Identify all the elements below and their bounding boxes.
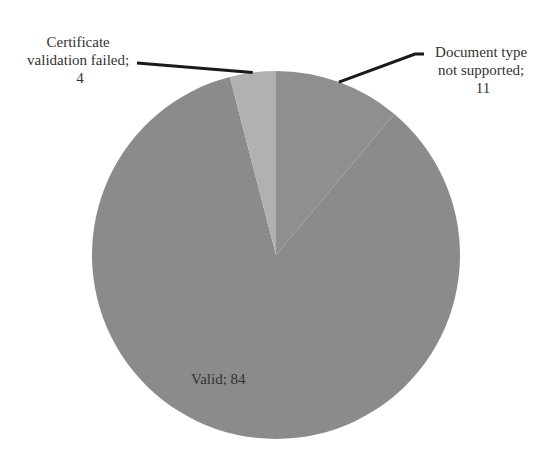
pie-chart: Document type not supported; 11 Valid; 8… [0, 0, 554, 463]
label-certificate-validation-failed: Certificate validation failed; 4 [27, 34, 133, 86]
leader-line-document-type [339, 54, 424, 82]
pie-slices [92, 71, 460, 439]
label-document-type-not-supported: Document type not supported; 11 [435, 44, 531, 96]
label-valid: Valid; 84 [191, 371, 246, 387]
leader-line-certificate [137, 63, 253, 72]
